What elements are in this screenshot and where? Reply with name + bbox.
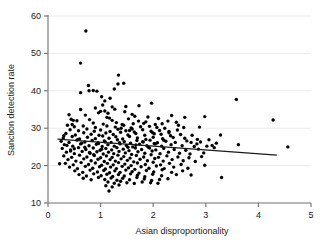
- data-point: [72, 119, 75, 122]
- data-point: [130, 127, 133, 130]
- data-point: [106, 180, 109, 183]
- data-point: [116, 153, 119, 156]
- data-point: [107, 150, 110, 153]
- data-point: [148, 138, 151, 141]
- data-point: [75, 119, 78, 122]
- data-point: [182, 126, 185, 129]
- data-point: [153, 132, 156, 135]
- data-point: [106, 162, 109, 165]
- scatter-plot-figure: 102030405060 012345 Asian disproportiona…: [0, 0, 325, 243]
- data-point: [105, 173, 108, 176]
- data-point: [117, 161, 120, 164]
- data-point: [107, 137, 110, 140]
- data-point: [161, 159, 164, 162]
- data-point: [147, 167, 150, 170]
- data-point: [117, 173, 120, 176]
- data-point: [159, 163, 162, 166]
- data-point: [154, 142, 157, 145]
- data-point: [157, 117, 160, 120]
- data-point: [117, 73, 120, 76]
- data-point: [144, 120, 147, 123]
- data-point: [77, 173, 80, 176]
- data-point: [110, 185, 113, 188]
- data-point: [148, 146, 151, 149]
- data-point: [85, 174, 88, 177]
- data-point: [110, 105, 113, 108]
- data-point: [68, 128, 71, 131]
- data-point: [73, 169, 76, 172]
- data-point: [183, 116, 186, 119]
- data-point: [149, 153, 152, 156]
- data-point: [80, 141, 83, 144]
- data-point: [181, 169, 184, 172]
- data-point: [108, 97, 111, 100]
- data-point: [119, 157, 122, 160]
- x-tick-label: 3: [203, 210, 208, 220]
- data-point: [82, 124, 85, 127]
- y-tick-label: 50: [31, 48, 41, 58]
- data-point: [215, 141, 218, 144]
- data-point: [103, 109, 106, 112]
- data-point: [139, 125, 142, 128]
- y-tick-label: 10: [31, 198, 41, 208]
- data-point: [135, 139, 138, 142]
- data-point: [65, 144, 68, 147]
- data-point: [160, 168, 163, 171]
- data-point: [123, 110, 126, 113]
- data-point: [235, 98, 238, 101]
- data-point: [190, 134, 193, 137]
- data-point: [133, 182, 136, 185]
- data-point: [114, 159, 117, 162]
- data-point: [140, 180, 143, 183]
- data-point: [97, 176, 100, 179]
- data-point: [73, 152, 76, 155]
- data-point: [97, 134, 100, 137]
- data-point: [115, 178, 118, 181]
- data-point: [126, 146, 129, 149]
- data-point: [73, 147, 76, 150]
- data-point: [122, 82, 125, 85]
- data-point: [62, 154, 65, 157]
- y-tick-label: 40: [31, 86, 41, 96]
- data-point: [175, 121, 178, 124]
- data-point: [79, 91, 82, 94]
- data-point: [98, 165, 101, 168]
- data-point: [82, 131, 85, 134]
- data-point: [157, 156, 160, 159]
- data-point: [170, 171, 173, 174]
- data-point: [176, 128, 179, 131]
- data-point: [138, 158, 141, 161]
- data-point: [108, 158, 111, 161]
- data-point: [144, 163, 147, 166]
- data-point: [152, 161, 155, 164]
- data-point: [155, 126, 158, 129]
- data-point: [166, 119, 169, 122]
- data-point: [66, 158, 69, 161]
- data-point: [143, 152, 146, 155]
- data-point: [137, 104, 140, 107]
- x-tick-label: 0: [45, 210, 50, 220]
- y-tick-label: 30: [31, 123, 41, 133]
- data-point: [100, 95, 103, 98]
- data-point: [203, 115, 206, 118]
- data-point: [109, 176, 112, 179]
- data-point: [105, 116, 108, 119]
- data-point: [198, 125, 201, 128]
- data-point: [112, 133, 115, 136]
- data-point: [189, 141, 192, 144]
- data-point: [69, 149, 72, 152]
- data-point: [141, 128, 144, 131]
- data-point: [116, 128, 119, 131]
- data-point: [81, 171, 84, 174]
- data-point: [82, 157, 85, 160]
- data-point: [193, 145, 196, 148]
- data-point: [68, 165, 71, 168]
- data-point: [77, 146, 80, 149]
- data-point: [94, 106, 97, 109]
- data-point: [92, 153, 95, 156]
- data-point: [110, 148, 113, 151]
- data-point: [136, 161, 139, 164]
- data-point: [70, 156, 73, 159]
- data-point: [67, 113, 70, 116]
- data-point: [129, 172, 132, 175]
